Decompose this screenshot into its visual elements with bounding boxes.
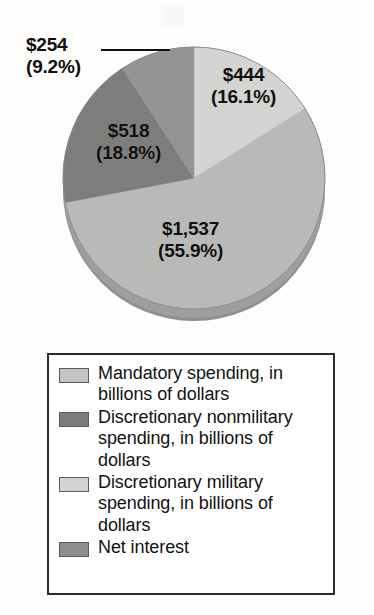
slice-label-mandatory: $1,537 (55.9%) (158, 218, 223, 262)
legend-list: Mandatory spending, in billions of dolla… (59, 363, 327, 559)
slice-percent: (55.9%) (158, 240, 223, 262)
slice-amount: $444 (211, 64, 276, 86)
legend-swatch (59, 477, 89, 492)
legend-item: Net interest (59, 537, 327, 558)
net-interest-leader-line (101, 49, 170, 51)
legend-item: Discretionary military spending, in bill… (59, 472, 327, 536)
pie-chart-figure: $444 (16.1%) $1,537 (55.9%) $518 (18.8%)… (0, 0, 374, 615)
pie-chart: $444 (16.1%) $1,537 (55.9%) $518 (18.8%)… (0, 0, 374, 340)
slice-percent: (9.2%) (26, 56, 81, 78)
legend-swatch (59, 542, 89, 557)
legend-item: Discretionary nonmilitary spending, in b… (59, 407, 327, 471)
slice-amount: $1,537 (158, 218, 223, 240)
slice-label-discretionary-nonmilitary: $518 (18.8%) (96, 120, 161, 164)
slice-percent: (18.8%) (96, 142, 161, 164)
legend-item: Mandatory spending, in billions of dolla… (59, 363, 327, 406)
legend-label: Discretionary nonmilitary spending, in b… (98, 407, 327, 471)
legend-swatch (59, 368, 89, 383)
legend-label: Net interest (98, 537, 189, 558)
slice-label-net-interest: $254 (9.2%) (26, 34, 81, 78)
slice-amount: $254 (26, 34, 81, 56)
slice-amount: $518 (96, 120, 161, 142)
legend-label: Mandatory spending, in billions of dolla… (98, 363, 327, 406)
slice-percent: (16.1%) (211, 86, 276, 108)
pie-slice-group (63, 47, 325, 309)
legend-swatch (59, 412, 89, 427)
chart-legend: Mandatory spending, in billions of dolla… (47, 353, 335, 595)
legend-label: Discretionary military spending, in bill… (98, 472, 327, 536)
slice-label-discretionary-military: $444 (16.1%) (211, 64, 276, 108)
